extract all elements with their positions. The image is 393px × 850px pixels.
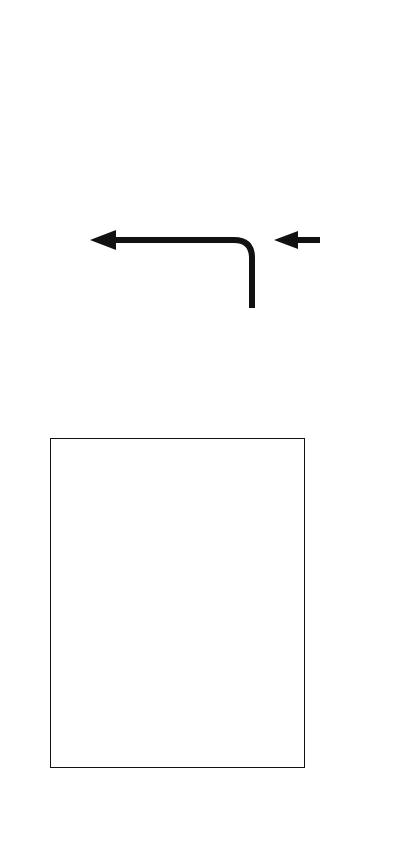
- scenario-legend: [44, 280, 344, 398]
- plot-frame: [50, 438, 305, 768]
- arctic-map-rcp26: [6, 60, 184, 238]
- figure-stage: [0, 0, 393, 850]
- sea-ice-timeseries-chart: [44, 422, 344, 826]
- arctic-map-rcp85: [198, 60, 376, 238]
- plot-canvas: [51, 440, 303, 767]
